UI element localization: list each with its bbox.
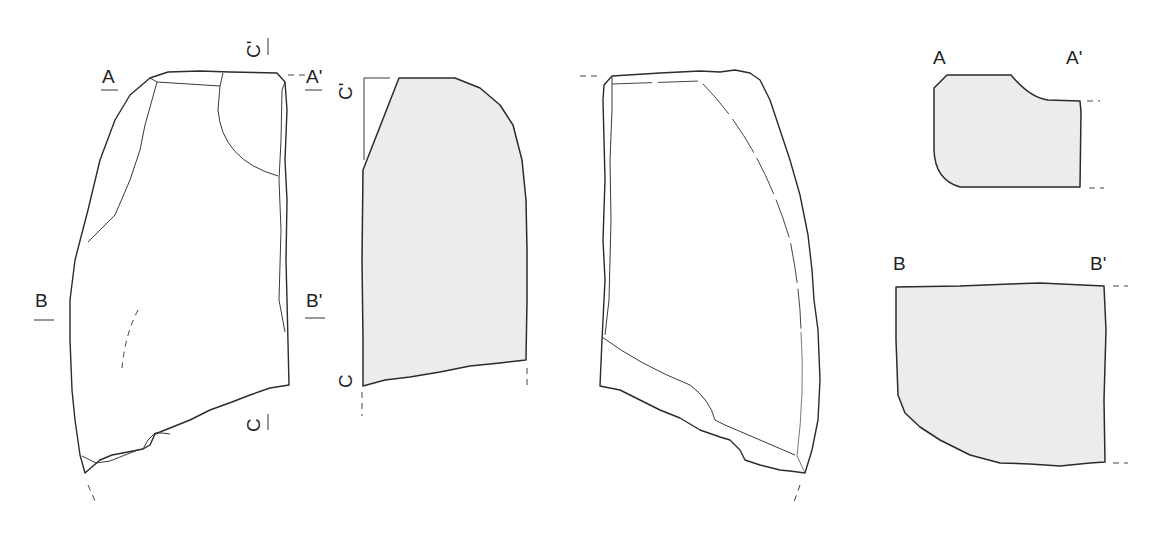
label-c-bottom: C <box>243 418 264 432</box>
label-section-a-right: A' <box>1066 47 1082 68</box>
ventral-left-edge <box>605 76 612 335</box>
dorsal-scar <box>218 86 278 176</box>
label-a: A <box>102 66 115 87</box>
label-b-prime: B' <box>306 290 322 311</box>
ventral-view <box>580 70 820 502</box>
profile-section-fill <box>362 78 527 386</box>
dorsal-dashed-ridge <box>122 310 138 368</box>
label-c-prime-profile: C' <box>335 83 356 100</box>
ventral-dashed-ridge <box>612 81 801 330</box>
artifact-drawing: A A' B B' C' C C' C A A' <box>0 0 1154 536</box>
dorsal-top-facet <box>157 73 223 86</box>
dorsal-left-facet <box>88 78 157 242</box>
section-a-fill <box>934 75 1081 187</box>
label-a-prime: A' <box>306 66 322 87</box>
section-b: B B' <box>893 253 1128 466</box>
label-c-profile: C <box>335 374 356 388</box>
label-section-b-right: B' <box>1090 253 1106 274</box>
dorsal-right-edge <box>279 82 285 332</box>
label-section-a-left: A <box>933 47 946 68</box>
label-section-b-left: B <box>893 253 906 274</box>
dorsal-outline <box>70 71 289 473</box>
dorsal-axis-tick <box>88 485 96 503</box>
ventral-axis-tick <box>794 485 800 502</box>
ventral-ridge-lower <box>797 332 805 473</box>
section-b-fill <box>896 283 1106 466</box>
dorsal-bottom-retouch <box>82 433 170 463</box>
profile-section-c: C' C <box>335 78 527 416</box>
ventral-outline <box>600 70 820 473</box>
section-a: A A' <box>933 47 1104 188</box>
label-c-prime-top: C' <box>243 41 264 58</box>
dorsal-view <box>70 71 289 503</box>
label-b: B <box>35 290 48 311</box>
